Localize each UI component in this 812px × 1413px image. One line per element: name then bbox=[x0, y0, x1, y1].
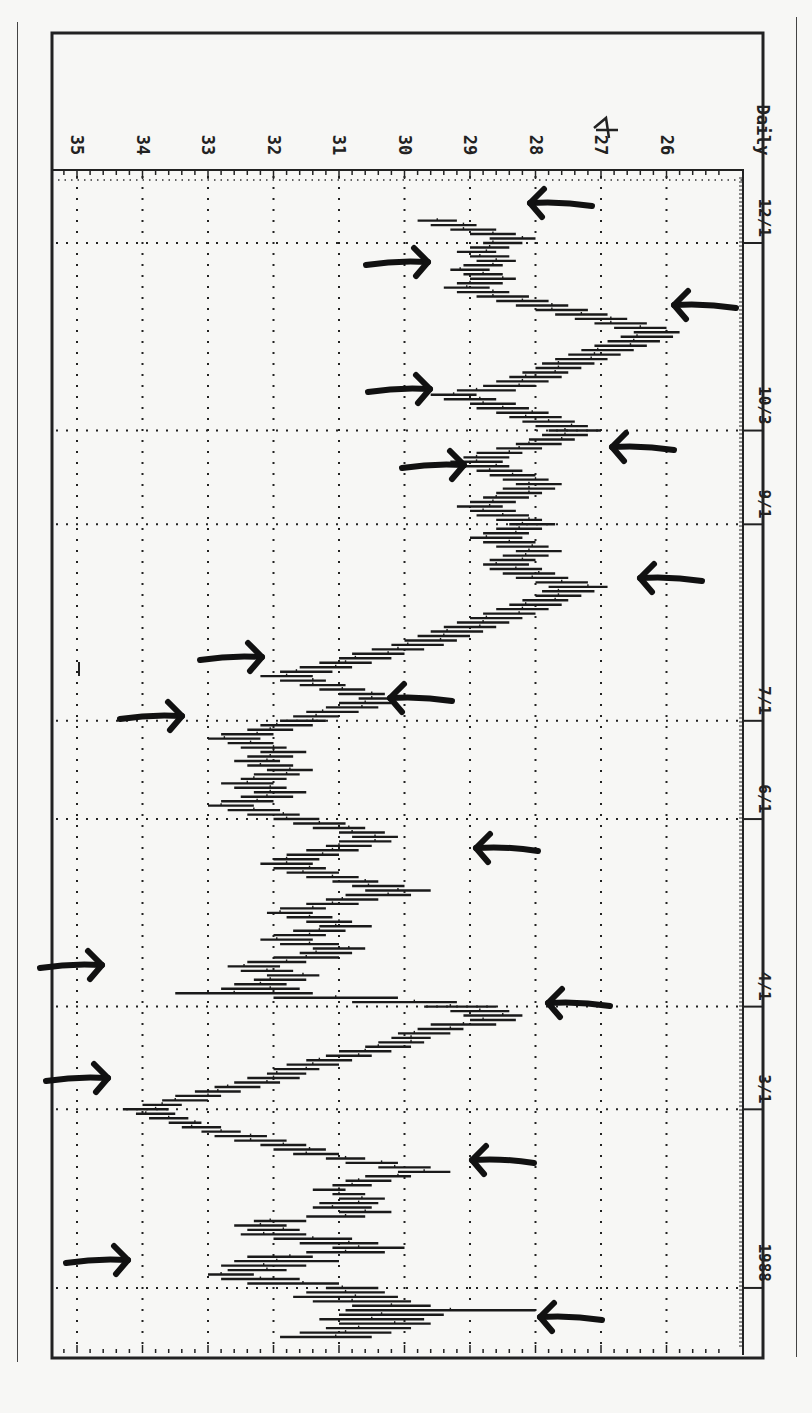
price-tick-labels: 35343332313029282726 bbox=[67, 135, 677, 155]
period-label: Daily bbox=[753, 104, 773, 155]
arrow-right-icon bbox=[120, 715, 182, 719]
annotation-arrows bbox=[40, 189, 736, 1331]
arrow-right-icon bbox=[366, 261, 428, 265]
arrow-left-icon bbox=[612, 446, 674, 450]
price-tick-label: 35 bbox=[67, 135, 87, 155]
price-tick-label: 32 bbox=[264, 135, 284, 155]
arrow-right-icon bbox=[368, 388, 430, 392]
date-tick-label: 12/1 bbox=[755, 198, 774, 237]
arrow-left-icon bbox=[472, 1159, 534, 1163]
arrow-left-icon bbox=[476, 847, 538, 851]
arrow-right-icon bbox=[46, 1077, 108, 1081]
price-tick-label: 33 bbox=[198, 135, 218, 155]
arrow-left-icon bbox=[674, 304, 736, 308]
arrow-right-icon bbox=[40, 964, 102, 968]
arrow-left-icon bbox=[390, 697, 452, 701]
arrow-right-icon bbox=[402, 464, 464, 468]
date-tick-labels: 19883/14/16/17/19/110/312/1 bbox=[743, 198, 774, 1287]
date-tick-label: 6/1 bbox=[755, 784, 774, 813]
price-tick-label: 28 bbox=[526, 135, 546, 155]
arrow-left-icon bbox=[540, 1316, 602, 1320]
date-tick-label: 3/1 bbox=[755, 1074, 774, 1103]
arrow-right-icon bbox=[200, 656, 262, 660]
date-tick-label: 9/1 bbox=[755, 489, 774, 518]
price-tick-label: 34 bbox=[133, 135, 153, 155]
date-tick-label: 4/1 bbox=[755, 972, 774, 1001]
price-tick-label: 30 bbox=[395, 135, 415, 155]
price-tick-label: 29 bbox=[460, 135, 480, 155]
arrow-right-icon bbox=[66, 1259, 128, 1263]
date-tick-label: 7/1 bbox=[755, 686, 774, 715]
arrow-left-icon bbox=[530, 202, 592, 206]
arrow-left-icon bbox=[640, 577, 702, 581]
date-tick-label: 10/3 bbox=[755, 386, 774, 425]
arrow-left-icon bbox=[548, 1002, 610, 1006]
price-bar-chart: 35343332313029282726 19883/14/16/17/19/1… bbox=[0, 0, 812, 1413]
date-tick-label: 1988 bbox=[755, 1243, 774, 1282]
price-tick-label: 31 bbox=[329, 135, 349, 155]
price-tick-label: 26 bbox=[657, 135, 677, 155]
gridlines bbox=[56, 176, 742, 1350]
